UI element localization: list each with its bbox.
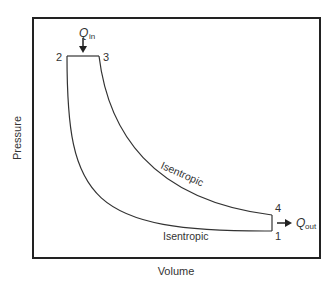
- heat-out-subscript: out: [305, 222, 317, 231]
- y-axis-label: Pressure: [11, 116, 23, 160]
- point-label-2: 2: [56, 51, 62, 63]
- label-isentropic-compression: Isentropic: [163, 230, 209, 242]
- heat-in-subscript: in: [89, 32, 95, 41]
- plot-frame: [33, 18, 320, 258]
- point-label-4: 4: [275, 202, 281, 214]
- process-1-2-isentropic: [67, 56, 272, 231]
- heat-out-arrow: [277, 219, 292, 227]
- x-axis-label: Volume: [158, 265, 195, 277]
- heat-out-symbol: Q: [296, 216, 305, 230]
- pv-diagram: 2 3 4 1 Q in Q out Isentropic Isentropic…: [0, 0, 336, 286]
- label-isentropic-expansion: Isentropic: [159, 159, 205, 188]
- heat-in-arrow: [79, 38, 87, 53]
- heat-in-symbol: Q: [79, 26, 88, 40]
- point-label-3: 3: [103, 51, 109, 63]
- point-label-1: 1: [275, 230, 281, 242]
- process-3-4-isentropic: [99, 56, 272, 215]
